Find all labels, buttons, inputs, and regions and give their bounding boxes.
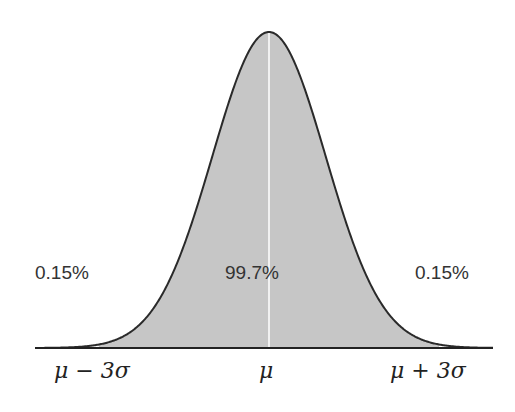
tick-mu-minus-3sigma: μ − 3σ [54, 358, 130, 383]
normal-distribution-chart [0, 0, 515, 412]
tick-mu: μ [259, 358, 273, 383]
tick-mu-plus-3sigma: μ + 3σ [390, 358, 466, 383]
left-tail-percent: 0.15% [35, 262, 89, 284]
center-percent: 99.7% [225, 262, 279, 284]
right-tail-percent: 0.15% [415, 262, 469, 284]
